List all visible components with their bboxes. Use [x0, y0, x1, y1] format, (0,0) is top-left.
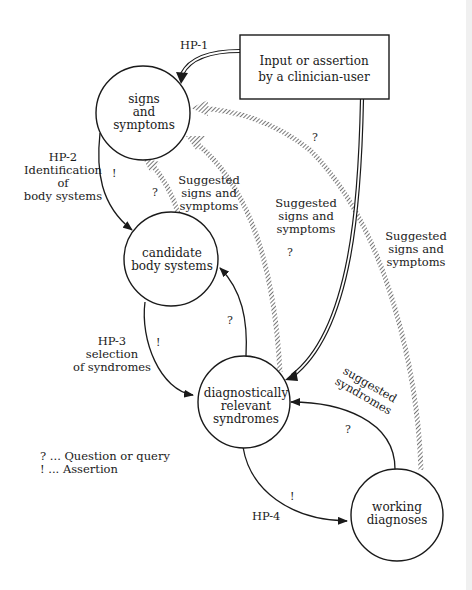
node-signs-and-symptoms: signs and symptoms	[96, 66, 190, 160]
double-arrow-hp1	[176, 51, 240, 84]
signs-symptoms-line2: and	[133, 105, 156, 119]
clinician-input-line1: Input or assertion	[259, 54, 368, 68]
mark-question-cbs-ss: ?	[152, 186, 158, 199]
hp2-line1: HP-2	[49, 150, 77, 164]
signs-symptoms-line3: symptoms	[113, 118, 175, 132]
sss3-line3: symptoms	[386, 255, 445, 269]
mark-question-drs-cbs: ?	[227, 314, 233, 327]
sss3-line1: Suggested	[385, 229, 447, 243]
drs-line2: relevant	[221, 399, 271, 413]
cbs-line1: candidate	[142, 246, 202, 260]
hatched-arrow-cbs-to-ss	[143, 158, 178, 213]
mark-question-wd-drs: ?	[345, 423, 351, 436]
node-working-diagnoses: working diagnoses	[351, 469, 443, 561]
mark-question-drs-ss: ?	[287, 246, 293, 259]
hp3-line1: HP-3	[98, 334, 126, 348]
hp3-line2: selection	[86, 347, 139, 361]
label-suggested-ss-1: Suggested signs and symptoms	[178, 173, 240, 213]
drs-line3: syndromes	[213, 412, 279, 426]
label-suggested-ss-3: Suggested signs and symptoms	[385, 229, 447, 269]
hp3-line3: of syndromes	[73, 360, 151, 374]
label-suggested-ss-2: Suggested signs and symptoms	[275, 196, 337, 236]
sss2-line1: Suggested	[275, 196, 337, 210]
mark-assertion-hp4: !	[290, 490, 294, 503]
hp2-line4: body systems	[24, 189, 102, 203]
legend: ? ... Question or query ! ... Assertion	[40, 449, 170, 476]
sss1-line1: Suggested	[178, 173, 240, 187]
sss1-line3: symptoms	[179, 199, 238, 213]
clinician-input-box: Input or assertion by a clinician-user	[240, 35, 389, 99]
mark-assertion-hp2: !	[112, 167, 116, 180]
legend-question: ? ... Question or query	[40, 449, 170, 463]
wd-line1: working	[372, 500, 422, 514]
label-hp3: HP-3 selection of syndromes	[73, 334, 151, 374]
wd-line2: diagnoses	[367, 513, 428, 527]
signs-symptoms-line1: signs	[128, 92, 160, 106]
sss2-line2: signs and	[278, 209, 334, 223]
mark-assertion-hp3: !	[156, 336, 160, 349]
label-hp4: HP-4	[252, 509, 280, 523]
sss3-line2: signs and	[388, 242, 444, 256]
clinician-input-line2: by a clinician-user	[258, 70, 370, 84]
arrow-drs-to-cbs-query	[220, 268, 246, 356]
label-hp1: HP-1	[180, 38, 208, 52]
node-candidate-body-systems: candidate body systems	[124, 212, 218, 306]
arrow-hp3-cbs-to-drs	[144, 302, 193, 395]
diagnostic-process-diagram: Input or assertion by a clinician-user s…	[0, 0, 472, 590]
label-hp2: HP-2 Identification of body systems	[24, 150, 103, 203]
cbs-line2: body systems	[131, 259, 213, 273]
sss1-line2: signs and	[181, 186, 237, 200]
drs-line1: diagnostically	[204, 386, 289, 400]
hp2-line3: of	[57, 176, 69, 190]
legend-assertion: ! ... Assertion	[40, 462, 119, 476]
node-diagnostically-relevant-syndromes: diagnostically relevant syndromes	[198, 356, 290, 448]
sss2-line3: symptoms	[276, 222, 335, 236]
mark-question-wd-ss: ?	[312, 131, 318, 144]
hp2-line2: Identification	[24, 163, 103, 177]
